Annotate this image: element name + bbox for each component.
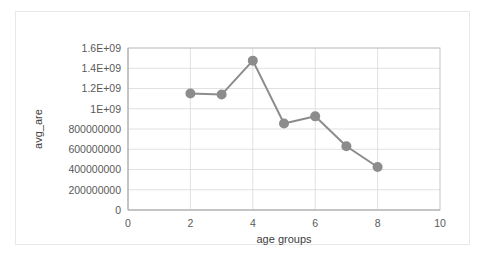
x-tick-label: 8 (375, 217, 381, 229)
x-tick-label: 6 (312, 217, 318, 229)
y-tick-label: 0 (115, 204, 121, 216)
data-point-marker (341, 141, 351, 151)
line-chart: 02000000004000000006000000008000000001E+… (0, 0, 485, 266)
x-tick-label: 10 (434, 217, 446, 229)
y-tick-label: 1E+09 (90, 103, 121, 115)
series-line-avg-are (190, 61, 377, 167)
y-tick-label: 1.4E+09 (82, 62, 122, 74)
y-tick-label: 800000000 (68, 123, 121, 135)
y-axis-title: avg_are (32, 109, 44, 149)
data-point-marker (217, 90, 227, 100)
y-tick-label: 200000000 (68, 184, 121, 196)
y-tick-label: 400000000 (68, 163, 121, 175)
series-markers (185, 56, 382, 172)
data-point-marker (279, 118, 289, 128)
data-point-marker (185, 89, 195, 99)
data-point-marker (310, 111, 320, 121)
x-tick-label: 2 (187, 217, 193, 229)
y-tick-label: 1.2E+09 (82, 82, 122, 94)
x-tick-label: 0 (125, 217, 131, 229)
y-tick-label: 1.6E+09 (82, 42, 122, 54)
x-tick-label: 4 (250, 217, 256, 229)
data-point-marker (248, 56, 258, 66)
y-axis-tick-labels: 02000000004000000006000000008000000001E+… (68, 42, 121, 216)
x-axis-title: age groups (256, 233, 312, 245)
x-axis-tick-labels: 0246810 (125, 217, 446, 229)
y-tick-label: 600000000 (68, 143, 121, 155)
data-point-marker (373, 162, 383, 172)
